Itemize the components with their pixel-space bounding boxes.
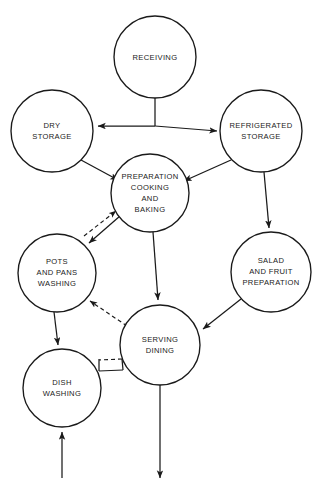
edge-receiving-to-refrigerated-storage: [155, 126, 217, 131]
node-dry-storage-label-line-1: DRY: [44, 121, 61, 130]
node-dry-storage-label-line-2: STORAGE: [32, 132, 71, 141]
edge-dry-storage-to-preparation: [81, 160, 118, 180]
node-serving-dining[interactable]: SERVING DINING: [120, 305, 200, 385]
edge-pots-pans-washing-to-dish-washing: [54, 312, 58, 345]
node-refrigerated-storage[interactable]: REFRIGERATED STORAGE: [220, 90, 302, 172]
node-dish-washing[interactable]: DISH WASHING: [23, 349, 101, 427]
node-serving-dining-circle[interactable]: [120, 305, 200, 385]
node-salad-fruit-preparation-label-line-1: SALAD: [258, 256, 285, 265]
node-preparation[interactable]: PREPARATION COOKING AND BAKING: [111, 154, 189, 232]
node-preparation-label-line-3: AND: [141, 194, 158, 203]
node-preparation-label-line-1: PREPARATION: [121, 172, 178, 181]
node-salad-fruit-preparation-label-line-2: AND FRUIT: [249, 267, 293, 276]
node-dish-washing-label-line-1: DISH: [52, 378, 72, 387]
edge-refrigerated-storage-to-salad-preparation: [264, 172, 269, 228]
edge-preparation-to-serving-dining: [153, 232, 158, 300]
edge-refrigerated-storage-to-preparation: [184, 160, 231, 181]
edge-serving-dining-to-dish-washing: [99, 359, 122, 360]
node-pots-pans-washing[interactable]: POTS AND PANS WASHING: [18, 234, 96, 312]
node-receiving[interactable]: RECEIVING: [114, 16, 196, 98]
node-serving-dining-label-line-2: DINING: [146, 346, 175, 355]
edge-dish-washing-to-serving-dining: [99, 370, 123, 371]
node-pots-pans-washing-label-line-3: WASHING: [38, 279, 76, 288]
flowchart-diagram: RECEIVING DRY STORAGE REFRIGERATED STORA…: [0, 0, 317, 484]
node-refrigerated-storage-label-line-2: STORAGE: [241, 132, 280, 141]
node-pots-pans-washing-label-line-2: AND PANS: [36, 268, 77, 277]
node-salad-fruit-preparation-label-line-3: PREPARATION: [242, 278, 299, 287]
node-receiving-label: RECEIVING: [133, 53, 178, 62]
flowchart-canvas: RECEIVING DRY STORAGE REFRIGERATED STORA…: [0, 0, 317, 484]
node-preparation-label-line-2: COOKING: [131, 183, 169, 192]
node-refrigerated-storage-circle[interactable]: [220, 90, 302, 172]
edge-salad-preparation-to-serving-dining: [203, 299, 241, 329]
node-salad-fruit-preparation[interactable]: SALAD AND FRUIT PREPARATION: [231, 232, 311, 312]
node-dry-storage[interactable]: DRY STORAGE: [11, 90, 93, 172]
node-dish-washing-label-line-2: WASHING: [43, 389, 81, 398]
node-refrigerated-storage-label-line-1: REFRIGERATED: [229, 121, 292, 130]
edge-serving-dining-to-pots-pans-washing: [90, 301, 127, 326]
node-layer: RECEIVING DRY STORAGE REFRIGERATED STORA…: [11, 16, 311, 427]
node-dry-storage-circle[interactable]: [11, 90, 93, 172]
node-preparation-circle[interactable]: [111, 154, 189, 232]
node-preparation-label-line-4: BAKING: [135, 205, 166, 214]
node-pots-pans-washing-label-line-1: POTS: [46, 257, 68, 266]
node-serving-dining-label-line-1: SERVING: [142, 335, 179, 344]
node-dish-washing-circle[interactable]: [23, 349, 101, 427]
edge-preparation-to-pots-pans-washing: [89, 216, 120, 243]
